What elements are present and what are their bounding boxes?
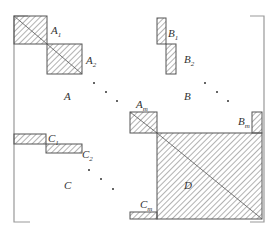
block-a2 [47,44,82,74]
label-a: A [63,90,71,102]
block-b2 [166,44,176,74]
label-c: C [64,179,72,191]
label-a1: A1 [50,24,61,39]
label-b: B [184,90,191,102]
block-c1 [14,134,46,144]
block-a1 [14,16,47,44]
block-am [130,112,157,133]
left-bracket [14,16,30,222]
ellipsis-c [88,169,114,190]
block-b1 [157,18,166,44]
block-bm [252,112,262,133]
block-d [157,133,262,219]
block-matrix-diagram: A1 A2 Am B1 B2 Bm C1 C2 Cm A B C D [0,0,278,236]
label-b2: B2 [184,53,195,68]
label-a2: A2 [85,54,97,69]
ellipsis-a [93,82,118,102]
label-c2: C2 [82,148,93,163]
block-cm [130,212,157,219]
label-am: Am [135,98,148,113]
label-b1: B1 [168,27,178,42]
label-bm: Bm [238,115,250,130]
block-c2 [46,144,82,153]
label-d: D [183,179,192,191]
ellipsis-b [204,82,229,102]
label-cm: Cm [140,198,152,213]
